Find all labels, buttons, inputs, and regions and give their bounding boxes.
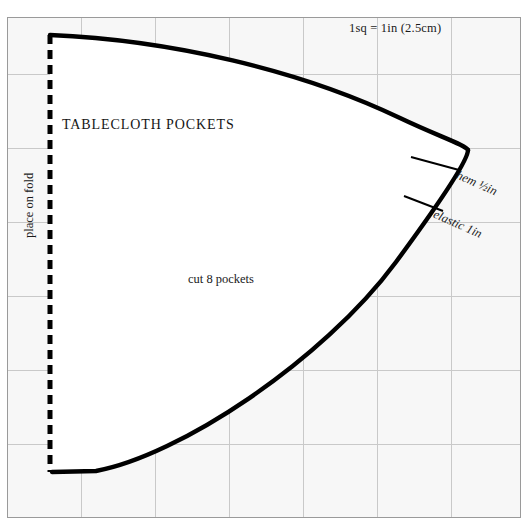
gridline-vertical (81, 18, 82, 517)
gridline-horizontal (8, 444, 520, 445)
gridline-vertical (303, 18, 304, 517)
pattern-title: TABLECLOTH POCKETS (62, 117, 235, 133)
scale-note: 1sq = 1in (2.5cm) (349, 21, 441, 36)
gridline-horizontal (8, 74, 520, 75)
gridline-vertical (377, 18, 378, 517)
pattern-diagram-page: 1sq = 1in (2.5cm) TABLECLOTH POCKETS cut… (0, 0, 531, 525)
gridline-vertical (155, 18, 156, 517)
cut-quantity-label: cut 8 pockets (188, 272, 254, 287)
gridline-horizontal (8, 296, 520, 297)
gridline-vertical (229, 18, 230, 517)
gridline-horizontal (8, 148, 520, 149)
place-on-fold-label: place on fold (22, 173, 37, 238)
gridline-vertical (451, 18, 452, 517)
gridline-horizontal (8, 370, 520, 371)
grid-sheet (7, 17, 521, 518)
cropped-text-sliver (0, 0, 531, 6)
